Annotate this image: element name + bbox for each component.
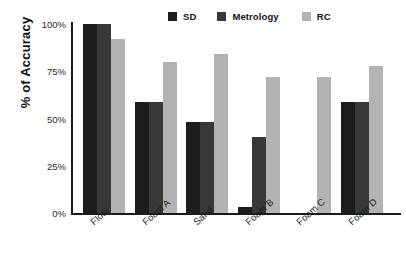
- legend-item-rc[interactable]: RC: [302, 11, 331, 22]
- legend-swatch-rc: [302, 12, 311, 21]
- x-tick-label: Foam D: [346, 196, 379, 227]
- y-tick-100: 100%: [42, 19, 66, 30]
- legend-swatch-sd: [168, 12, 177, 21]
- x-tick-label: Foam C: [294, 196, 327, 227]
- legend-label-rc: RC: [317, 11, 331, 22]
- y-tick-0: 0%: [52, 208, 66, 219]
- chart-legend: SD Metrology RC: [168, 11, 331, 22]
- x-tick-label: Foam A: [140, 197, 172, 227]
- legend-item-sd[interactable]: SD: [168, 11, 196, 22]
- x-tick-label: Sand: [191, 204, 215, 227]
- y-tick-25: 25%: [47, 160, 66, 171]
- plot-area: 0%25%50%75%100% FloorFoam ASandFoam BFoa…: [73, 24, 399, 213]
- bar-chart: SD Metrology RC % of Accuracy 0%25%50%75…: [0, 0, 406, 269]
- y-tick-50: 50%: [47, 113, 66, 124]
- y-tick-75: 75%: [47, 66, 66, 77]
- x-tick-label: Floor: [88, 204, 112, 227]
- legend-label-sd: SD: [183, 11, 196, 22]
- legend-label-metrology: Metrology: [232, 11, 278, 22]
- legend-item-metrology[interactable]: Metrology: [217, 11, 278, 22]
- x-tick-label: Foam B: [243, 196, 276, 227]
- y-axis-title: % of Accuracy: [18, 0, 33, 133]
- legend-swatch-metrology: [217, 12, 226, 21]
- x-tick-labels: FloorFoam ASandFoam BFoam CFoam D: [73, 24, 399, 213]
